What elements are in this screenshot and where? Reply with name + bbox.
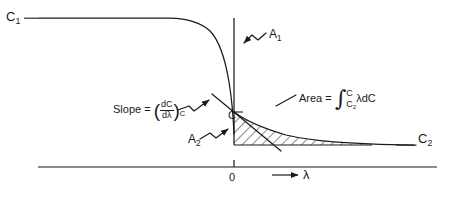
- label-origin: 0: [229, 172, 235, 183]
- label-region-a2: A2: [188, 133, 201, 148]
- annotation-slope: Slope = (dCdλ)C: [113, 100, 185, 120]
- label-c-level: C: [228, 110, 236, 121]
- concentration-lambda-diagram: [0, 0, 451, 200]
- label-c1: C1: [6, 10, 20, 26]
- integral-limits: CC2: [346, 88, 356, 110]
- slope-fraction: dCdλ: [160, 100, 174, 120]
- integral-sign: ∫: [335, 90, 346, 109]
- integrand: λdC: [356, 93, 376, 104]
- label-c2-right: C2: [418, 132, 432, 148]
- area-leader-line: [276, 95, 296, 106]
- a2-zigzag-arrow: [200, 129, 228, 139]
- label-lambda-axis: λ: [303, 168, 310, 181]
- x-axis: [38, 160, 437, 167]
- annotation-area: Area = ∫CC2λdC: [299, 88, 376, 110]
- label-region-a1: A1: [269, 28, 282, 43]
- a1-zigzag-arrow: [244, 33, 266, 43]
